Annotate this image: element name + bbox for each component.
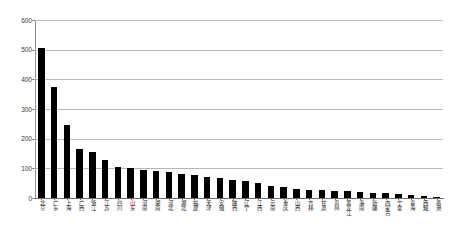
x-tick-mark xyxy=(156,198,157,200)
bar-slot xyxy=(127,20,133,198)
x-label-山东: 山东 xyxy=(127,200,135,210)
y-tick-mark-0 xyxy=(32,198,35,199)
bar-slot xyxy=(370,20,376,198)
bar-slot xyxy=(382,20,388,198)
bar-安徽 xyxy=(217,178,223,198)
x-label-黑龙江: 黑龙江 xyxy=(343,200,351,215)
x-label-辽宁: 辽宁 xyxy=(241,200,249,210)
bar-slot xyxy=(51,20,57,198)
bar-浙江 xyxy=(89,152,95,198)
bar-山西 xyxy=(293,189,299,198)
x-tick-mark xyxy=(54,198,55,200)
bar-slot xyxy=(153,20,159,198)
bar-slot xyxy=(319,20,325,198)
bar-广东 xyxy=(51,87,57,198)
y-tick-mark-400 xyxy=(32,79,35,80)
bar-slot xyxy=(268,20,274,198)
y-axis-tick-labels: 0100200300400500600 xyxy=(0,0,32,242)
x-label-云南: 云南 xyxy=(267,200,275,210)
x-tick-mark xyxy=(169,198,170,200)
bar-slot xyxy=(64,20,70,198)
bar-湖南 xyxy=(153,171,159,198)
x-label-上海: 上海 xyxy=(63,200,71,210)
bar-上海 xyxy=(64,125,70,198)
x-label-宁夏: 宁夏 xyxy=(394,200,402,210)
x-label-河南: 河南 xyxy=(139,200,147,210)
bar-slot xyxy=(293,20,299,198)
x-tick-mark xyxy=(386,198,387,200)
x-tick-mark xyxy=(118,198,119,200)
bar-slot xyxy=(357,20,363,198)
y-tick-label-100: 100 xyxy=(6,165,32,172)
bar-slot xyxy=(395,20,401,198)
bar-slot xyxy=(204,20,210,198)
y-tick-mark-100 xyxy=(32,168,35,169)
x-label-安徽: 安徽 xyxy=(216,200,224,210)
y-tick-mark-500 xyxy=(32,50,35,51)
x-label-山西: 山西 xyxy=(292,200,300,210)
y-tick-mark-200 xyxy=(32,139,35,140)
bar-slot xyxy=(102,20,108,198)
bar-slot xyxy=(217,20,223,198)
bar-甘肃 xyxy=(319,190,325,198)
bar-series xyxy=(35,20,443,198)
bar-slot xyxy=(306,20,312,198)
x-label-西藏: 西藏 xyxy=(420,200,428,210)
x-label-天津: 天津 xyxy=(203,200,211,210)
bar-slot xyxy=(140,20,146,198)
x-tick-mark xyxy=(143,198,144,200)
x-tick-mark xyxy=(360,198,361,200)
y-tick-label-300: 300 xyxy=(6,106,32,113)
x-tick-mark xyxy=(347,198,348,200)
bar-广西 xyxy=(76,149,82,198)
x-axis-category-labels: 北京广东上海广西浙江江苏四川山东河南湖南河北湖北福建天津安徽陕西辽宁江西云南重庆… xyxy=(35,200,443,242)
bar-chart: 0100200300400500600 北京广东上海广西浙江江苏四川山东河南湖南… xyxy=(0,0,460,242)
x-label-重庆: 重庆 xyxy=(280,200,288,210)
x-tick-mark xyxy=(309,198,310,200)
bar-slot xyxy=(331,20,337,198)
bar-slot xyxy=(76,20,82,198)
bar-slot xyxy=(408,20,414,198)
x-label-四川: 四川 xyxy=(114,200,122,210)
bar-slot xyxy=(229,20,235,198)
x-label-内蒙古: 内蒙古 xyxy=(382,200,390,215)
bar-福建 xyxy=(191,175,197,198)
x-label-湖南: 湖南 xyxy=(152,200,160,210)
x-tick-mark xyxy=(105,198,106,200)
x-label-广东: 广东 xyxy=(50,200,58,210)
x-label-北京: 北京 xyxy=(37,200,45,210)
x-tick-mark xyxy=(411,198,412,200)
x-tick-mark xyxy=(437,198,438,200)
bar-slot xyxy=(421,20,427,198)
bar-吉林 xyxy=(306,190,312,198)
bar-北京 xyxy=(38,48,44,198)
x-label-吉林: 吉林 xyxy=(305,200,313,210)
x-tick-mark xyxy=(194,198,195,200)
x-tick-mark xyxy=(335,198,336,200)
bar-slot xyxy=(280,20,286,198)
x-tick-mark xyxy=(220,198,221,200)
x-tick-mark xyxy=(271,198,272,200)
bar-江苏 xyxy=(102,160,108,198)
x-tick-mark xyxy=(245,198,246,200)
bar-slot xyxy=(191,20,197,198)
x-label-江苏: 江苏 xyxy=(101,200,109,210)
x-tick-mark xyxy=(233,198,234,200)
bar-湖北 xyxy=(178,174,184,198)
bar-slot xyxy=(178,20,184,198)
y-tick-mark-300 xyxy=(32,109,35,110)
bar-slot xyxy=(38,20,44,198)
x-tick-mark xyxy=(284,198,285,200)
bar-slot xyxy=(166,20,172,198)
y-tick-label-200: 200 xyxy=(6,135,32,142)
y-tick-label-400: 400 xyxy=(6,76,32,83)
x-tick-mark xyxy=(296,198,297,200)
bar-云南 xyxy=(268,186,274,198)
bar-slot xyxy=(344,20,350,198)
x-label-甘肃: 甘肃 xyxy=(318,200,326,210)
bar-河北 xyxy=(166,172,172,198)
bar-slot xyxy=(115,20,121,198)
x-label-河北: 河北 xyxy=(165,200,173,210)
bar-重庆 xyxy=(280,187,286,198)
x-tick-mark xyxy=(424,198,425,200)
